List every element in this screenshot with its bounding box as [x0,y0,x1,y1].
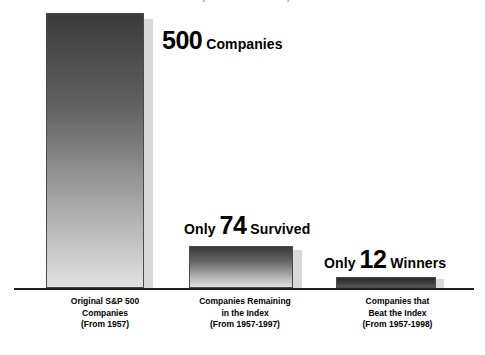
category-label-1-line1: Original S&P 500 [30,296,180,308]
bar-beat-the-index[interactable] [336,277,436,288]
data-label-1-suffix: Companies [206,36,282,52]
category-label-1-line3: (From 1957) [30,319,180,331]
plot-area: 500Companies Only74Survived Only12Winner… [0,0,485,290]
category-label-1-line2: Companies [30,308,180,320]
data-label-3-prefix: Only [324,255,356,271]
category-label-2-line3: (From 1957-1997) [170,319,320,331]
category-label-3-line2: Beat the Index [320,308,475,320]
bar-shadow-1 [144,19,153,288]
data-label-1: 500Companies [158,28,283,53]
category-label-2-line1: Companies Remaining [170,296,320,308]
bar-shadow-3 [436,279,444,288]
category-label-3-line1: Companies that [320,296,475,308]
category-label-2-line2: in the Index [170,308,320,320]
category-label-3-line3: (From 1957-1998) [320,319,475,331]
category-label-1: Original S&P 500 Companies (From 1957) [30,296,180,331]
data-label-3-value: 12 [360,245,387,273]
bar-shadow-2 [293,250,302,288]
data-label-2-value: 74 [220,211,247,239]
data-label-2-suffix: Survived [250,221,310,237]
data-label-2-prefix: Only [184,221,216,237]
bar-original-sp500[interactable] [46,13,144,288]
category-label-2: Companies Remaining in the Index (From 1… [170,296,320,331]
bar-companies-remaining[interactable] [189,246,293,288]
data-label-3: Only12Winners [324,247,446,272]
data-label-2: Only74Survived [184,213,310,238]
data-label-1-value: 500 [162,26,202,54]
category-label-3: Companies that Beat the Index (From 1957… [320,296,475,331]
x-axis-line [14,288,474,290]
chart-container: Mortality of the Indexed Companies 500Co… [0,0,485,355]
data-label-3-suffix: Winners [390,255,446,271]
